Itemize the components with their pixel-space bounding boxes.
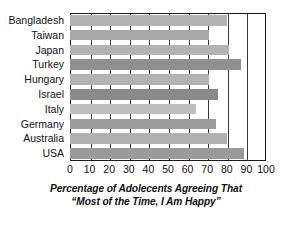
bar-row	[70, 43, 266, 58]
bar-row	[70, 102, 266, 117]
bar-usa	[70, 148, 244, 159]
bar-row	[70, 87, 266, 102]
bar-row	[70, 72, 266, 87]
bar-row	[70, 131, 266, 146]
bar-turkey	[70, 59, 241, 70]
y-label-usa: USA	[42, 146, 64, 161]
x-tick-0: 0	[67, 163, 73, 175]
bar-japan	[70, 45, 229, 56]
bars-container	[70, 13, 266, 161]
bar-row	[70, 13, 266, 28]
y-axis-labels: BangladeshTaiwanJapanTurkeyHungaryIsrael…	[0, 13, 67, 161]
x-tick-90: 90	[241, 163, 253, 175]
x-tick-100: 100	[257, 163, 275, 175]
x-tick-60: 60	[182, 163, 194, 175]
y-label-japan: Japan	[35, 43, 64, 58]
bar-taiwan	[70, 30, 209, 41]
y-label-germany: Germany	[21, 117, 64, 132]
x-tick-30: 30	[123, 163, 135, 175]
y-label-italy: Italy	[45, 102, 64, 117]
x-tick-10: 10	[84, 163, 96, 175]
bar-row	[70, 146, 266, 161]
caption-line-1: Percentage of Adolecents Agreeing That	[0, 182, 292, 195]
x-axis-tick-labels: 0102030405060708090100	[70, 163, 266, 177]
bar-australia	[70, 133, 227, 144]
y-label-taiwan: Taiwan	[31, 28, 64, 43]
bar-row	[70, 28, 266, 43]
x-tick-50: 50	[162, 163, 174, 175]
y-label-turkey: Turkey	[32, 57, 64, 72]
y-label-australia: Australia	[23, 131, 64, 146]
x-tick-40: 40	[143, 163, 155, 175]
bar-bangladesh	[70, 15, 227, 26]
bar-germany	[70, 119, 216, 130]
x-tick-20: 20	[103, 163, 115, 175]
bar-italy	[70, 104, 196, 115]
chart-caption: Percentage of Adolecents Agreeing That “…	[0, 182, 292, 208]
y-label-israel: Israel	[38, 87, 64, 102]
y-label-hungary: Hungary	[24, 72, 64, 87]
bar-israel	[70, 89, 218, 100]
bar-hungary	[70, 74, 209, 85]
caption-line-2: “Most of the Time, I Am Happy”	[0, 195, 292, 208]
x-tick-80: 80	[221, 163, 233, 175]
x-tick-70: 70	[201, 163, 213, 175]
bar-row	[70, 57, 266, 72]
bar-chart: BangladeshTaiwanJapanTurkeyHungaryIsrael…	[0, 0, 292, 225]
bar-row	[70, 117, 266, 132]
y-label-bangladesh: Bangladesh	[9, 13, 64, 28]
